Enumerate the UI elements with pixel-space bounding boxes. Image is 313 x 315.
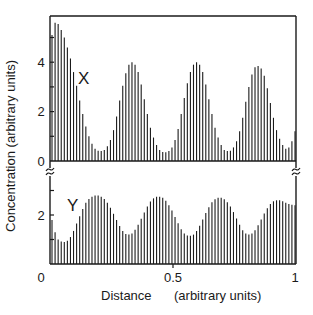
series-label-x: X bbox=[78, 69, 89, 88]
x-axis-title: Distance bbox=[101, 288, 152, 303]
x-panel-y-tick-4: 4 bbox=[37, 55, 44, 70]
y-axis-title: Concentration (arbitrary units) bbox=[3, 60, 18, 232]
y-panel-y-tick-2: 2 bbox=[37, 208, 44, 223]
right-axis-break-icon bbox=[292, 168, 300, 171]
chart: X Y 0 0.5 1 Distance (arbitrary units) C… bbox=[0, 0, 313, 315]
x-axis-units: (arbitrary units) bbox=[174, 288, 261, 303]
x-panel-y-tick-2: 2 bbox=[37, 104, 44, 119]
panel-x bbox=[52, 23, 295, 161]
panel-y bbox=[52, 195, 295, 264]
series-label-y: Y bbox=[67, 196, 78, 215]
left-axis-break-icon bbox=[46, 168, 54, 171]
right-axis-break-icon bbox=[292, 172, 300, 175]
axes bbox=[46, 16, 300, 268]
left-axis-break-icon bbox=[46, 172, 54, 175]
x-tick-label-0: 0 bbox=[37, 270, 44, 285]
x-panel-y-tick-0: 0 bbox=[37, 154, 44, 169]
x-tick-label-0-5: 0.5 bbox=[164, 270, 182, 285]
x-tick-label-1: 1 bbox=[291, 270, 298, 285]
